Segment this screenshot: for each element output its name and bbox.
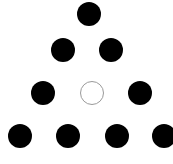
filled-dot — [77, 2, 101, 26]
empty-dot — [80, 81, 104, 105]
filled-dot — [56, 124, 80, 148]
filled-dot — [152, 124, 173, 148]
filled-dot — [51, 38, 75, 62]
filled-dot — [105, 124, 129, 148]
filled-dot — [31, 81, 55, 105]
filled-dot — [128, 81, 152, 105]
filled-dot — [8, 124, 32, 148]
filled-dot — [99, 38, 123, 62]
